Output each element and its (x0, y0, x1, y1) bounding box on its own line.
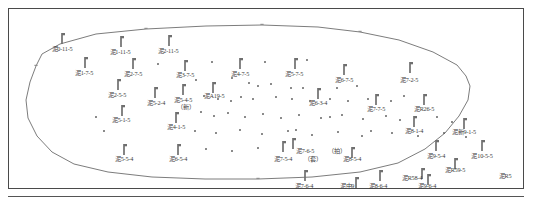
well-label: 泥R58-4 (402, 174, 422, 181)
well-label: 泥3-7-5 (176, 71, 194, 78)
well-label: 泥8-5-4 (343, 155, 361, 162)
well-label: 泥9-6-4 (418, 182, 436, 189)
well-label: 泥2-11-5 (158, 47, 179, 54)
well-label: 泥4-7-5 (231, 70, 249, 77)
well-label: 泥5-7-5 (285, 70, 303, 77)
well-label: 泥A19-5 (204, 92, 225, 99)
well-label: （拍） (328, 147, 345, 154)
well-label: 泥1-11-5 (110, 48, 131, 55)
well-label: （套） (304, 155, 321, 162)
well-label: 泥10-5-5 (471, 152, 492, 159)
well-label: 泥7-2-5 (400, 76, 418, 83)
well-label: 泥R5 (499, 172, 512, 179)
well-label: 泥5-1-5 (112, 116, 130, 123)
well-label: 泥2-7-5 (124, 70, 142, 77)
well-label: 泥新9-1-5 (452, 128, 476, 135)
figure-frame (8, 8, 524, 189)
well-label: 泥R59-5 (445, 166, 465, 173)
well-label: 泥6-5-4 (169, 155, 187, 162)
well-label: 泥8-1-4 (405, 127, 423, 134)
figure-canvas: 泥0-11-5泥1-11-5泥2-11-5泥1-7-5泥2-7-5泥3-7-5泥… (0, 0, 534, 212)
well-label: 泥2-5-5 (108, 91, 126, 98)
well-label: 泥7-7-5 (367, 105, 385, 112)
well-label: 泥1-7-5 (75, 69, 93, 76)
well-label: 泥6-3-4 (309, 99, 327, 106)
well-label: 泥9-5-4 (427, 152, 445, 159)
well-label: 泥5-4-5 (174, 96, 192, 103)
well-label: 泥5-2-4 (147, 99, 165, 106)
well-label: 泥7-5-4 (274, 155, 292, 162)
bottom-rule (8, 196, 524, 197)
well-label: 泥7-6-5 (296, 147, 314, 154)
well-label: 泥0-11-5 (52, 45, 73, 52)
well-label: （新） (177, 103, 194, 110)
well-label: 泥R26-5 (414, 105, 434, 112)
well-label: 泥5-5-4 (115, 155, 133, 162)
well-label: 泥6-7-5 (335, 76, 353, 83)
well-label: 泥7-6-4 (295, 182, 313, 189)
well-label: 泥8-6-4 (369, 182, 387, 189)
well-label: 泥4-1-5 (167, 123, 185, 130)
well-label: 泥中9 (340, 182, 355, 189)
